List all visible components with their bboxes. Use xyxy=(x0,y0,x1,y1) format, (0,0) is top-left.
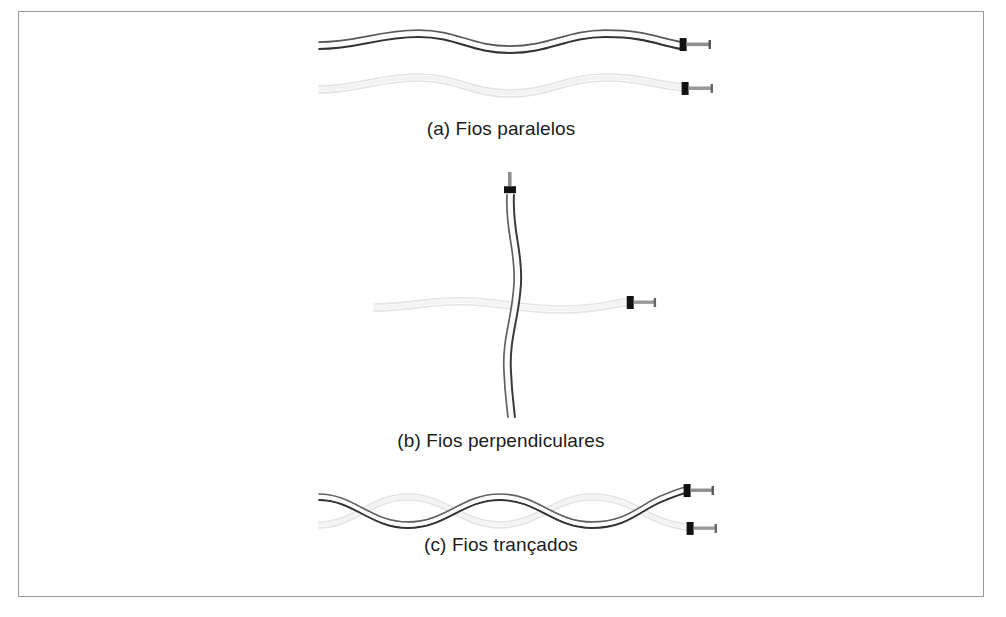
terminal-light-twisted xyxy=(687,522,717,535)
panel-twisted-wires: (c) Fios trançados xyxy=(19,472,983,598)
perpendicular-wires-drawing xyxy=(19,172,983,422)
caption-panel-b: (b) Fios perpendiculares xyxy=(19,430,983,452)
terminal-dark-parallel xyxy=(680,38,711,51)
panel-parallel-wires: (a) Fios paralelos xyxy=(19,12,983,172)
wire-light-parallel xyxy=(318,74,683,97)
parallel-wires-drawing xyxy=(19,12,983,122)
figure-root: (a) Fios paralelos xyxy=(0,0,1006,617)
terminal-light-horizontal-right xyxy=(627,296,656,309)
terminal-dark-twisted xyxy=(684,484,714,497)
figure-frame-border: (a) Fios paralelos xyxy=(18,11,984,597)
twisted-wires-drawing xyxy=(19,472,983,538)
terminal-dark-vertical-top xyxy=(504,172,516,193)
terminal-light-parallel xyxy=(682,82,713,95)
caption-panel-a: (a) Fios paralelos xyxy=(19,118,983,140)
panel-perpendicular-wires: (b) Fios perpendiculares xyxy=(19,172,983,472)
caption-panel-c: (c) Fios trançados xyxy=(19,534,983,556)
wire-light-horizontal xyxy=(373,298,629,313)
wire-dark-parallel xyxy=(318,30,681,53)
